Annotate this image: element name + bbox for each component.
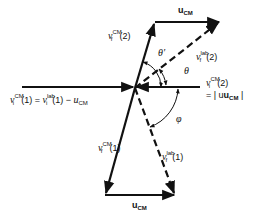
vi-cm-1-equation-label: vCMi(1) = vlabi(1) − uCM (10, 93, 88, 106)
theta-prime-label: θ′ (158, 48, 165, 58)
vf-cm-1-label: vCMf(1) (98, 141, 120, 154)
vf-lab-1-label: vlabf(1) (162, 150, 183, 163)
theta-arc (159, 69, 166, 85)
u-cm-top-label: uCM (178, 6, 193, 16)
vf-cm-2-vector (135, 24, 154, 88)
phi-label: φ (176, 114, 182, 124)
vi-cm-2-label: vCMi(2) (206, 76, 228, 89)
u-cm-bottom-label: uCM (132, 201, 147, 211)
vf-lab-1-vector (135, 88, 174, 193)
vf-cm-2-label: vCMf(2) (108, 29, 130, 42)
phi-arc (150, 89, 178, 127)
vi-cm-2-magnitude-label: = | uuCM | (206, 91, 243, 101)
vf-lab-2-label: vlabf(2) (196, 50, 217, 63)
theta-prime-arc (143, 62, 161, 87)
theta-label: θ (184, 66, 189, 76)
